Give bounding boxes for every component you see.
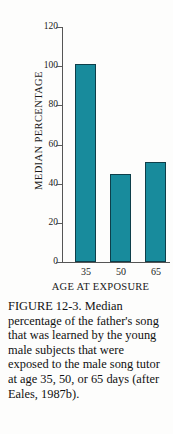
y-tick-label-100: 100 <box>28 61 58 71</box>
bar-65 <box>145 162 166 262</box>
y-tick-label-40: 40 <box>28 179 58 189</box>
bar-chart: MEDIAN PERCENTAGE 120 100 80 60 40 20 0 <box>0 0 173 300</box>
y-tick-label-20: 20 <box>28 218 58 228</box>
y-tick-label-80: 80 <box>28 100 58 110</box>
x-axis-line <box>62 262 170 263</box>
figure-caption: FIGURE 12-3. Median percentage of the fa… <box>8 299 166 401</box>
y-tick-label-60: 60 <box>28 140 58 150</box>
x-tick-label-65: 65 <box>141 266 171 277</box>
y-axis-tick-labels: 120 100 80 60 40 20 0 <box>28 0 58 300</box>
x-axis-tick-labels: 35 50 65 <box>63 266 170 280</box>
x-tick-label-35: 35 <box>71 266 101 277</box>
bar-50 <box>110 174 131 262</box>
bar-35 <box>75 64 96 262</box>
y-tick-label-0: 0 <box>28 257 58 267</box>
figure-panel: MEDIAN PERCENTAGE 120 100 80 60 40 20 0 <box>0 0 173 434</box>
x-axis-title: AGE AT EXPOSURE <box>0 281 173 292</box>
y-tick-label-120: 120 <box>28 22 58 32</box>
x-tick-label-50: 50 <box>106 266 136 277</box>
plot-area <box>63 27 170 262</box>
